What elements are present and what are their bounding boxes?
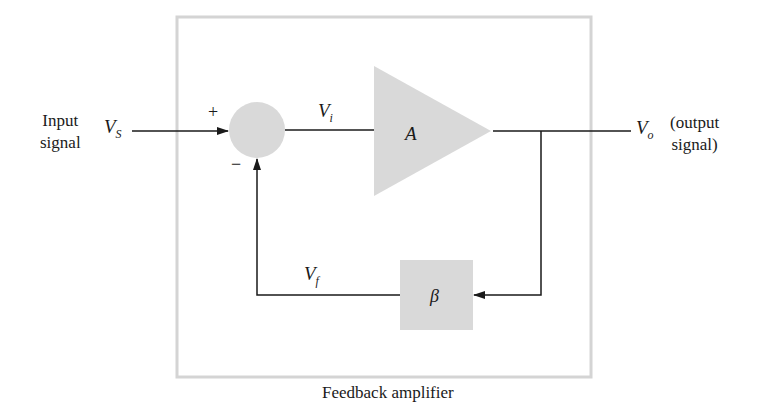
amplifier-frame xyxy=(177,17,591,377)
input-symbol: VS xyxy=(104,117,122,139)
input-label: Input signal xyxy=(40,110,81,154)
plus-sign: + xyxy=(208,102,218,122)
summing-junction xyxy=(229,102,285,158)
output-symbol-sub: o xyxy=(648,128,654,142)
input-symbol-sub: S xyxy=(116,127,122,141)
amplifier-triangle xyxy=(374,66,491,196)
output-symbol: Vo xyxy=(636,118,654,140)
amplifier-label: A xyxy=(405,124,417,144)
feedback-network-label: β xyxy=(430,286,439,306)
output-label-line2: signal) xyxy=(670,134,719,156)
output-symbol-v: V xyxy=(636,117,648,138)
output-label: (output signal) xyxy=(670,112,719,156)
input-symbol-v: V xyxy=(104,116,116,137)
error-signal-sub: i xyxy=(330,111,333,125)
error-signal-v: V xyxy=(318,100,330,121)
feedback-path-right xyxy=(474,131,541,295)
input-label-line1: Input xyxy=(40,110,81,132)
feedback-signal-sub: f xyxy=(316,274,319,288)
minus-sign: − xyxy=(231,154,241,174)
error-signal-label: Vi xyxy=(318,101,333,123)
output-label-line1: (output xyxy=(670,112,719,134)
feedback-signal-label: Vf xyxy=(304,264,319,286)
feedback-amplifier-diagram xyxy=(0,0,769,407)
input-label-line2: signal xyxy=(40,132,81,154)
diagram-caption: Feedback amplifier xyxy=(322,383,454,403)
feedback-signal-v: V xyxy=(304,263,316,284)
